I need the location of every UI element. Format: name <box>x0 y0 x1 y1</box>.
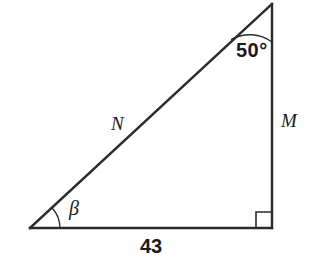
angle-apex-label: 50° <box>236 40 268 60</box>
geometry-figure: 43 M N 50° β <box>0 0 312 267</box>
side-base-label: 43 <box>140 236 162 256</box>
right-angle-square-marker <box>256 212 272 228</box>
angle-left-label: β <box>69 198 79 218</box>
side-hypotenuse-label: N <box>111 114 124 133</box>
angle-arc-left <box>52 208 60 228</box>
side-vertical-label: M <box>281 111 297 130</box>
